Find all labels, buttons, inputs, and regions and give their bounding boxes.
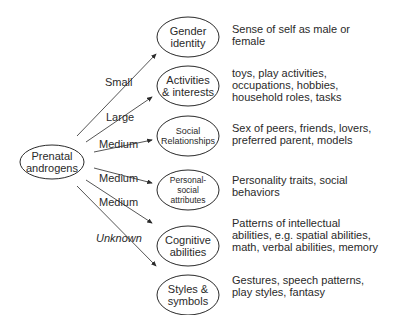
node-label-line-2: & interests xyxy=(157,86,219,98)
arrow-to-gender-identity xyxy=(77,54,156,136)
source-label-line-2: androgens xyxy=(20,162,84,174)
gender-identity-label: Gender identity xyxy=(157,25,219,49)
description-styles-symbols: Gestures, speech patterns, play styles, … xyxy=(232,274,364,298)
source-label-line-1: Prenatal xyxy=(20,150,84,162)
node-label-line-2: symbols xyxy=(157,295,219,307)
effect-label-social-relationships: Medium xyxy=(99,138,138,150)
effect-label-cognitive-abilities: Medium xyxy=(99,196,138,208)
description-activities-interests: toys, play activities, occupations, hobb… xyxy=(232,67,341,103)
node-label-line-1: Social xyxy=(157,126,219,136)
description-gender-identity: Sense of self as male or female xyxy=(232,23,350,47)
node-label-line-3: attributes xyxy=(157,195,219,205)
styles-symbols-label: Styles & symbols xyxy=(157,283,219,307)
description-personal-social-attributes: Personality traits, social behaviors xyxy=(232,174,348,198)
node-label-line-2: Relationships xyxy=(157,136,219,146)
effect-label-gender-identity: Small xyxy=(105,76,133,88)
node-label-line-1: Cognitive xyxy=(157,234,219,246)
description-cognitive-abilities: Patterns of intellectual abilities, e.g.… xyxy=(232,217,378,253)
prenatal-androgens-label: Prenatal androgens xyxy=(20,150,84,174)
personal-social-attributes-label: Personal- social attributes xyxy=(157,175,219,205)
node-label-line-1: Activities xyxy=(157,74,219,86)
social-relationships-label: Social Relationships xyxy=(157,126,219,146)
cognitive-abilities-label: Cognitive abilities xyxy=(157,234,219,258)
effect-label-styles-symbols: Unknown xyxy=(96,232,142,244)
node-label-line-1: Gender xyxy=(157,25,219,37)
effect-label-personal-social-attributes: Medium xyxy=(99,172,138,184)
activities-interests-label: Activities & interests xyxy=(157,74,219,98)
description-social-relationships: Sex of peers, friends, lovers, preferred… xyxy=(232,122,371,146)
node-label-line-2: identity xyxy=(157,37,219,49)
node-label-line-2: abilities xyxy=(157,246,219,258)
effect-label-activities-interests: Large xyxy=(106,111,134,123)
node-label-line-2: social xyxy=(157,185,219,195)
node-label-line-1: Personal- xyxy=(157,175,219,185)
node-label-line-1: Styles & xyxy=(157,283,219,295)
